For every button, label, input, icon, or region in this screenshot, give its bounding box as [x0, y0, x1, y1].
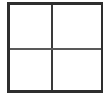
quadrant-grid-cells [10, 5, 101, 90]
quadrant-grid-frame [7, 2, 103, 93]
quadrant-cell-top-right-label [53, 5, 101, 48]
quadrant-cell-bottom-left[interactable] [10, 50, 51, 90]
quadrant-cell-top-right[interactable] [53, 5, 101, 48]
figure-canvas [0, 0, 108, 96]
quadrant-cell-top-left-label [10, 5, 51, 48]
horizontal-divider [10, 48, 101, 50]
quadrant-cell-top-left[interactable] [10, 5, 51, 48]
quadrant-cell-bottom-right[interactable] [53, 50, 101, 90]
quadrant-cell-bottom-right-label [53, 50, 101, 90]
quadrant-cell-bottom-left-label [10, 50, 51, 90]
